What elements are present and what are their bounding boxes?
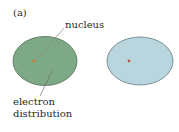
electron-label-line2: distribution (13, 108, 72, 120)
left-nucleus (33, 60, 36, 63)
atom-diagram: (a) nucleus electron distribution (0, 0, 179, 132)
nucleus-label: nucleus (65, 19, 104, 31)
electron-label-line1: electron (13, 96, 55, 108)
right-electron-distribution (107, 37, 173, 85)
left-electron-distribution (13, 37, 77, 86)
panel-label: (a) (13, 7, 27, 19)
right-nucleus (128, 60, 131, 63)
